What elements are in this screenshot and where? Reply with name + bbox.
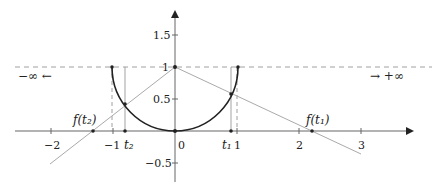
y-tick-label: 1.5 xyxy=(153,29,171,42)
x-tick-label: 2 xyxy=(296,139,303,152)
t1-label: t₁ xyxy=(222,138,232,152)
x-tick-label: 3 xyxy=(358,139,365,152)
f-t2-label: f(t₂) xyxy=(72,113,97,127)
negative-infinity-label: −∞ ← xyxy=(18,69,52,83)
f-t1-label: f(t₁) xyxy=(305,113,330,127)
y-tick-label: 1 xyxy=(162,61,169,74)
projection-line-right xyxy=(175,67,361,154)
x-tick-label: 0 xyxy=(178,139,185,152)
y-tick-label: −0.5 xyxy=(145,157,172,170)
y-tick-label: 0.5 xyxy=(153,93,171,106)
semicircle-projection-diagram: −2 −1 0 1 2 3 1.5 1 0.5 −0.5 −∞ ← → +∞ f… xyxy=(0,0,432,191)
x-tick-label: 1 xyxy=(234,139,241,152)
t2-label: t₂ xyxy=(124,138,134,152)
x-tick-label: −2 xyxy=(44,139,60,152)
positive-infinity-label: → +∞ xyxy=(370,69,404,83)
x-tick-label: −1 xyxy=(104,139,120,152)
